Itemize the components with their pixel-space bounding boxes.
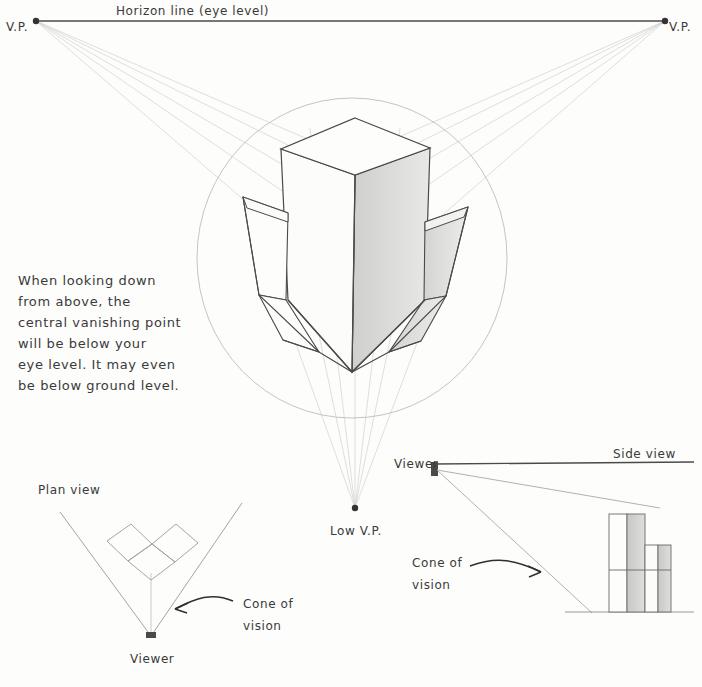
side-block-tall-shaded <box>627 514 645 612</box>
side-cone-label-line-1: Cone of <box>412 556 462 570</box>
caption-line-3: central vanishing point <box>18 315 181 330</box>
caption-line-4: will be below your <box>18 336 147 351</box>
side-block-short-front <box>645 545 658 612</box>
horizon-line-label: Horizon line (eye level) <box>116 4 269 18</box>
side-block-tall-front <box>609 514 627 612</box>
plan-cone-label-line-2: vision <box>243 619 282 633</box>
side-cone-arrow-shaft <box>470 560 541 572</box>
perspective-drawing-sheet: Horizon line (eye level) V.P. V.P. When … <box>0 0 702 687</box>
plan-cone-arrow-shaft <box>175 597 233 609</box>
caption-line-2: from above, the <box>18 294 131 309</box>
side-viewer-label: Viewer <box>394 457 438 471</box>
low-vanishing-point-label: Low V.P. <box>330 524 382 538</box>
plan-block-left <box>107 524 152 561</box>
plan-cone-label-line-1: Cone of <box>243 597 293 611</box>
caption-line-1: When looking down <box>18 273 156 288</box>
plan-cone-arrow-head <box>175 603 188 613</box>
plan-viewer-marker <box>146 632 156 638</box>
side-cone-lower-ray <box>437 470 592 613</box>
drawing-canvas: Horizon line (eye level) V.P. V.P. When … <box>0 0 702 687</box>
side-eye-level-line <box>434 462 694 464</box>
plan-view-title: Plan view <box>38 483 100 497</box>
left-vanishing-point-label: V.P. <box>6 20 28 34</box>
side-cone-upper-ray <box>437 470 660 508</box>
side-cone-arrow-head <box>528 566 541 577</box>
right-vanishing-point-label: V.P. <box>669 20 691 34</box>
plan-block-right <box>152 524 198 562</box>
side-view-group <box>431 462 694 613</box>
side-view-title: Side view <box>613 447 676 461</box>
plan-view-group <box>60 503 242 638</box>
plan-viewer-label: Viewer <box>130 652 174 666</box>
right-vanishing-point-marker <box>662 18 668 24</box>
side-block-short-shaded <box>658 545 671 612</box>
low-vanishing-point-marker <box>352 505 358 511</box>
side-cone-label-line-2: vision <box>412 578 451 592</box>
horizon-line-group <box>33 18 668 24</box>
caption-line-6: be below ground level. <box>18 378 179 393</box>
left-vanishing-point-marker <box>33 18 39 24</box>
caption-line-5: eye level. It may even <box>18 357 176 372</box>
plan-block-centre <box>128 544 175 580</box>
